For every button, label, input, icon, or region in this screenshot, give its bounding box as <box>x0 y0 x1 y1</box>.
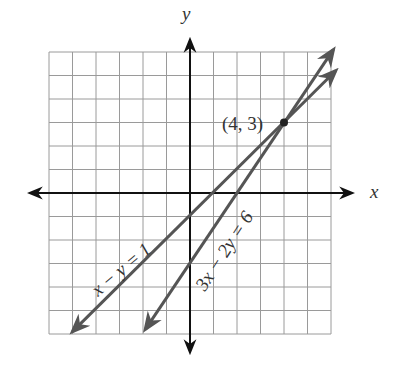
line2-label: 3x − 2y = 6 <box>190 207 257 295</box>
line1-label: x − y = 1 <box>86 238 155 300</box>
coordinate-plane: (4, 3) y x x − y = 1 3x − 2y = 6 <box>0 0 402 368</box>
intersection-point <box>280 119 288 127</box>
x-axis-label: x <box>369 181 379 202</box>
y-axis-label: y <box>180 3 191 24</box>
point-label: (4, 3) <box>222 113 263 135</box>
